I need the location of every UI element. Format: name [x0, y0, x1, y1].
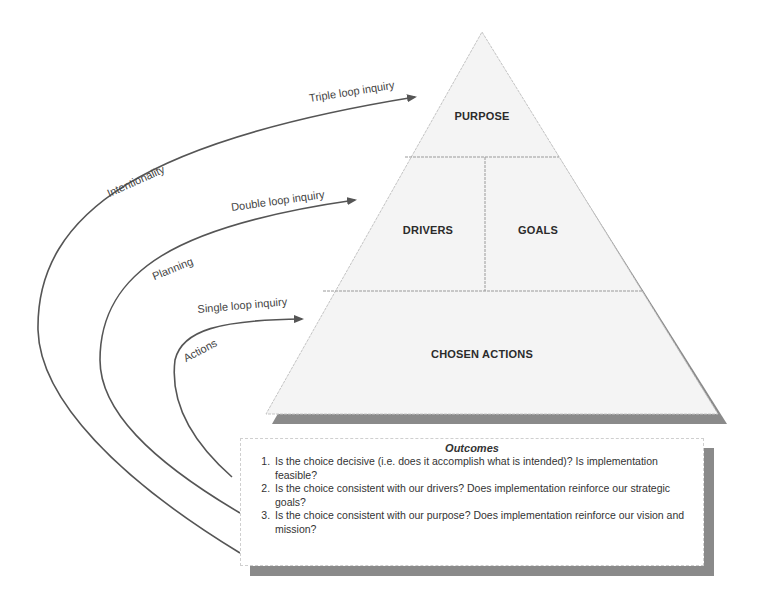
tier-goals: GOALS [518, 224, 558, 236]
tier-purpose: PURPOSE [454, 110, 509, 122]
tier-chosen-actions: CHOSEN ACTIONS [431, 348, 533, 360]
outcomes-box: Outcomes Is the choice decisive (i.e. do… [240, 438, 704, 566]
outcome-item: Is the choice decisive (i.e. does it acc… [273, 455, 691, 482]
tier-drivers: DRIVERS [403, 224, 453, 236]
outcome-item: Is the choice consistent with our driver… [273, 482, 691, 509]
outcomes-title: Outcomes [253, 442, 691, 454]
outcomes-list: Is the choice decisive (i.e. does it acc… [253, 455, 691, 536]
outcome-item: Is the choice consistent with our purpos… [273, 509, 691, 536]
